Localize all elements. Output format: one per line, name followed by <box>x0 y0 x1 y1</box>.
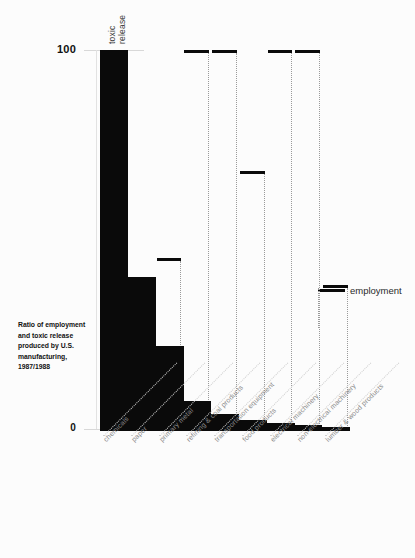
employment-stem <box>264 174 265 419</box>
employment-stem <box>236 53 237 413</box>
chart-canvas: 100 0 toxic release employment Ratio of … <box>0 0 415 558</box>
annotation-toxic-release-line1: toxic <box>107 26 117 44</box>
employment-dash <box>157 258 182 261</box>
employment-stem <box>180 261 181 344</box>
employment-stem <box>208 53 209 400</box>
y-axis-tick-100: 100 <box>36 43 76 55</box>
legend-swatch-employment <box>318 289 345 292</box>
y-axis-line <box>96 50 97 429</box>
legend-label-employment: employment <box>350 285 402 296</box>
employment-dash <box>184 50 209 53</box>
employment-dash <box>129 285 154 288</box>
employment-dash <box>268 50 293 53</box>
y-axis-tick-0: 0 <box>36 422 76 433</box>
employment-dash <box>295 50 320 53</box>
employment-dash <box>212 50 237 53</box>
annotation-toxic-release-line2: release <box>117 15 127 44</box>
employment-stem <box>319 53 320 424</box>
employment-dash <box>323 285 348 288</box>
employment-stem <box>347 288 348 426</box>
employment-dash <box>240 171 265 174</box>
bar-toxic-release <box>100 50 128 429</box>
chart-caption: Ratio of employment and toxic release pr… <box>18 320 96 373</box>
plot-area <box>100 50 350 429</box>
employment-stem <box>291 53 292 422</box>
gridline-0 <box>84 429 100 430</box>
